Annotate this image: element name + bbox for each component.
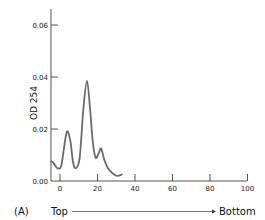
od-curve: [51, 81, 122, 176]
x-tick-label: 40: [131, 185, 140, 193]
x-tick-label: 20: [93, 185, 102, 193]
y-tick-label: 0.04: [32, 74, 48, 82]
y-axis-title: OD 254: [29, 86, 39, 120]
x-tick-label: 80: [206, 185, 215, 193]
panel-label: (A): [14, 206, 29, 217]
y-tick-label: 0.06: [32, 22, 48, 30]
x-tick-label: 100: [241, 185, 254, 193]
x-axis-ticks: 020406080100: [58, 174, 254, 193]
direction-end-label: Bottom: [219, 206, 256, 217]
direction-arrowhead-icon: [212, 210, 216, 214]
direction-start-label: Top: [50, 206, 68, 217]
chart: OD 254 0.000.020.040.06 020406080100 (A)…: [0, 0, 265, 220]
x-tick-label: 0: [58, 185, 62, 193]
x-tick-label: 60: [168, 185, 177, 193]
y-tick-label: 0.00: [32, 178, 48, 186]
y-tick-label: 0.02: [32, 126, 48, 134]
